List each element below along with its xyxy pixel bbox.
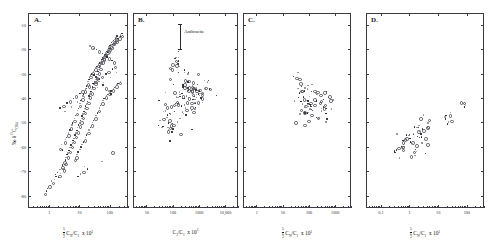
data-point [71,124,72,125]
data-point [106,95,107,96]
y-tick [28,147,31,148]
x-tick-label: 100 [99,210,121,215]
data-point [113,61,117,65]
y-tick [133,147,136,148]
data-point [84,139,88,143]
x-minor-tick [76,206,77,208]
x-tick-top [283,13,284,16]
data-point [84,96,85,97]
x-minor-tick [141,206,142,208]
data-point [181,105,182,106]
x-minor-tick [348,206,349,208]
y-tick [133,25,136,26]
x-minor-tick [298,206,299,208]
x-minor-tick [159,206,160,208]
data-point [319,117,320,118]
data-point [323,107,327,111]
y-tick [366,122,369,123]
x-minor-tick [63,206,64,208]
data-point [169,140,170,141]
data-point [171,68,175,72]
y-tick-right [125,196,128,197]
y-tick [28,74,31,75]
x-minor-tick [277,206,278,208]
x-minor-tick [447,206,448,208]
data-point [421,136,422,137]
x-tick-top [409,13,410,16]
x-minor-tick [107,206,108,208]
data-point [120,81,121,82]
data-point [188,97,189,98]
y-tick-right [125,122,128,123]
x-minor-tick [238,206,239,208]
data-point [102,57,106,61]
data-point [97,65,101,69]
data-point [102,84,103,85]
panel-c-plot-area [243,13,351,208]
y-tick-label: -10 [12,23,26,28]
y-tick [133,98,136,99]
data-point [59,107,60,108]
data-point [87,102,91,106]
x-minor-tick [33,206,34,208]
y-tick [28,171,31,172]
x-minor-tick [437,206,438,208]
y-tick-right [125,171,128,172]
data-point [77,176,78,177]
y-tick [28,25,31,26]
data-point [178,60,179,61]
data-point [85,107,89,111]
y-tick [133,171,136,172]
x-minor-tick [42,206,43,208]
data-point [417,136,418,137]
x-tick-label: 1000 [188,210,210,215]
y-tick-right [481,196,484,197]
x-minor-tick [249,206,250,208]
data-point [167,114,168,115]
data-point [55,174,56,175]
y-tick-right [481,122,484,123]
data-point [396,133,397,134]
x-minor-tick [98,206,99,208]
y-tick [366,49,369,50]
x-tick-top [110,13,111,16]
x-minor-tick [331,206,332,208]
x-tick-top [335,13,336,16]
x-minor-tick [401,206,402,208]
y-tick-right [348,147,351,148]
data-point [307,88,308,89]
y-tick [366,171,369,172]
y-tick [366,74,369,75]
data-point [404,138,408,142]
x-minor-tick [48,206,49,208]
data-point [294,100,295,101]
x-minor-tick [246,206,247,208]
x-tick [256,205,257,208]
data-point [194,108,195,109]
data-point [100,61,104,65]
x-minor-tick [376,206,377,208]
x-tick [335,205,336,208]
data-point [94,68,98,72]
x-minor-tick [405,206,406,208]
x-minor-tick [343,206,344,208]
y-tick [243,98,246,99]
data-point [80,146,81,147]
x-minor-tick [378,206,379,208]
x-minor-tick [169,206,170,208]
x-minor-tick [172,206,173,208]
y-tick-right [348,196,351,197]
data-point [62,105,66,109]
data-point [115,40,119,44]
x-tick [173,205,174,208]
x-tick [110,205,111,208]
y-tick-right [125,25,128,26]
data-point [105,96,109,100]
data-point [295,77,299,81]
x-minor-tick [366,206,367,208]
x-minor-tick [75,206,76,208]
x-minor-tick [136,206,137,208]
x-minor-tick [100,206,101,208]
data-point [421,142,422,143]
x-minor-tick [480,206,481,208]
